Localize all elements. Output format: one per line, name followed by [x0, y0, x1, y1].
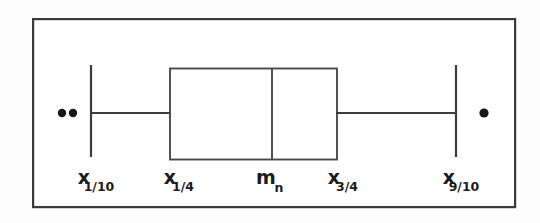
iqr-box — [170, 69, 337, 160]
label-x-3-4-sub: 3/4 — [336, 179, 358, 194]
outlier-left-1-dot — [58, 109, 66, 117]
label-x-9-10-sub: 9/10 — [449, 179, 480, 194]
label-x-1-10-sub: 1/10 — [84, 179, 115, 194]
label-m-n-sub: n — [275, 180, 284, 195]
boxplot-figure: x 1/10 x 1/4 m n x 3/4 x 9/10 — [0, 0, 540, 223]
outlier-right-1-dot — [479, 108, 488, 117]
boxplot-canvas: x 1/10 x 1/4 m n x 3/4 x 9/10 — [0, 0, 540, 223]
label-m-n-base: m — [256, 166, 276, 188]
label-x-1-4-sub: 1/4 — [172, 179, 194, 194]
outlier-left-2-dot — [69, 109, 77, 117]
